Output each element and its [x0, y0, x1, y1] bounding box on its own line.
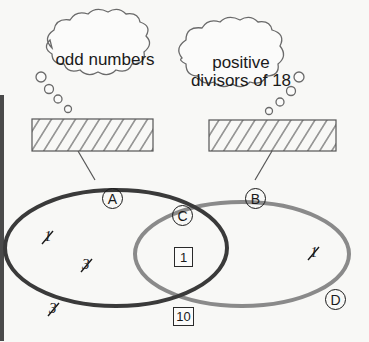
connector-right	[255, 151, 272, 180]
region-label-d: D	[325, 289, 346, 310]
struck-number-3-outside: 3	[49, 300, 57, 317]
strike-mark-icon	[47, 300, 61, 318]
answer-box-right	[209, 120, 336, 151]
intersection-number-box: 1	[174, 247, 193, 267]
struck-number-3-set-a: 3	[82, 256, 90, 273]
struck-number-1-set-b: 1	[310, 244, 318, 261]
cloud-right-line1: positive	[186, 53, 296, 72]
strike-mark-icon	[307, 244, 321, 262]
region-label-b: B	[245, 188, 266, 209]
venn-diagram: odd numbers positive divisors of 18 A B …	[0, 0, 369, 342]
connector-left	[78, 151, 95, 180]
region-label-a: A	[102, 188, 123, 209]
region-label-c: C	[172, 205, 193, 226]
strike-mark-icon	[80, 256, 94, 274]
answer-box-left	[32, 119, 153, 151]
cloud-left-text: odd numbers	[55, 50, 155, 69]
cloud-right-line2: divisors of 18	[186, 71, 296, 90]
struck-number-1-set-a: 1	[44, 228, 52, 245]
strike-mark-icon	[41, 228, 55, 246]
outside-number-box: 10	[173, 307, 194, 326]
